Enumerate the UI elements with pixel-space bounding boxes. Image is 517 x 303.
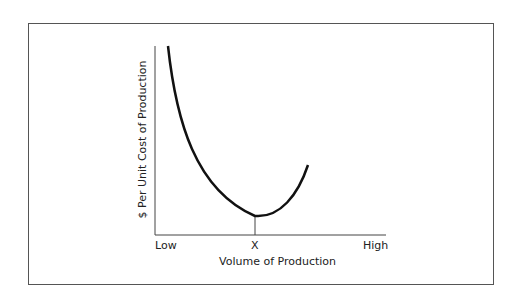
y-axis-label: $ Per Unit Cost of Production (136, 60, 149, 220)
x-axis-label: Volume of Production (219, 255, 336, 268)
x-tick-x: X (251, 239, 259, 252)
cost-curve (168, 46, 308, 216)
x-tick-high: High (363, 239, 388, 252)
x-tick-low: Low (155, 239, 177, 252)
